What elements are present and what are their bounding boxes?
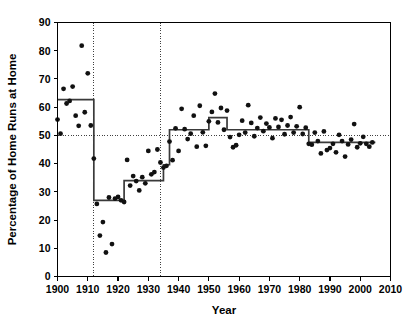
data-point [194, 144, 199, 149]
data-point [182, 127, 187, 132]
axis-label-layer: 0102030405060708090190019101920193019401… [6, 16, 402, 315]
y-tick-label: 60 [39, 101, 51, 113]
data-point [312, 130, 317, 135]
data-point [191, 113, 196, 118]
data-point [152, 170, 157, 175]
data-point [219, 106, 224, 111]
y-tick-label: 90 [39, 16, 51, 28]
data-point [285, 123, 290, 128]
data-point [200, 130, 205, 135]
data-point [288, 115, 293, 120]
data-point [70, 84, 75, 89]
data-point [179, 106, 184, 111]
data-point [134, 179, 139, 184]
data-point [258, 115, 263, 120]
data-point [282, 132, 287, 137]
data-point [309, 142, 314, 147]
y-axis-title: Percentage of Home Runs at Home [6, 54, 18, 246]
data-point [76, 123, 81, 128]
data-point [270, 136, 275, 141]
data-point-layer [55, 43, 375, 255]
y-tick-label: 40 [39, 157, 51, 169]
data-point [216, 120, 221, 125]
x-tick-label: 2010 [379, 283, 403, 295]
x-tick-label: 1910 [76, 283, 100, 295]
data-point [73, 113, 78, 118]
data-point [252, 134, 257, 139]
data-point [346, 142, 351, 147]
x-axis-title: Year [212, 304, 237, 316]
data-point [131, 174, 136, 179]
data-point [315, 139, 320, 144]
data-point [267, 125, 272, 130]
x-tick-label: 1930 [137, 283, 161, 295]
reference-line-layer [58, 23, 391, 277]
data-point [279, 117, 284, 122]
data-point [101, 220, 106, 225]
data-point [85, 71, 90, 76]
scatter-step-plot: 0102030405060708090190019101920193019401… [0, 0, 417, 335]
data-point [222, 127, 227, 132]
data-point [249, 121, 254, 126]
y-tick-label: 30 [39, 186, 51, 198]
x-tick-label: 1950 [197, 283, 221, 295]
data-point [273, 116, 278, 121]
data-point [367, 144, 372, 149]
data-point [122, 200, 127, 205]
data-point [349, 137, 354, 142]
data-point [294, 124, 299, 129]
data-point [246, 103, 251, 108]
data-point [243, 130, 248, 135]
data-point [291, 130, 296, 135]
data-point [79, 43, 84, 48]
x-tick-label: 2000 [349, 283, 373, 295]
data-point [58, 131, 63, 136]
data-point [331, 141, 336, 146]
data-point [137, 188, 142, 193]
axis-layer [54, 23, 391, 281]
data-point [170, 158, 175, 163]
x-tick-label: 1980 [288, 283, 312, 295]
data-point [213, 91, 218, 96]
x-tick-label: 1940 [167, 283, 191, 295]
y-tick-label: 10 [39, 242, 51, 254]
data-point [297, 105, 302, 110]
data-point [110, 242, 115, 247]
data-point [206, 119, 211, 124]
y-tick-label: 0 [45, 270, 51, 282]
y-tick-label: 80 [39, 45, 51, 57]
data-point [300, 132, 305, 137]
data-point [318, 151, 323, 156]
data-point [128, 183, 133, 188]
data-point [173, 126, 178, 131]
data-point [225, 108, 230, 113]
data-point [125, 158, 130, 163]
chart-figure: 0102030405060708090190019101920193019401… [0, 0, 417, 335]
data-point [209, 110, 214, 115]
y-tick-label: 20 [39, 214, 51, 226]
data-point [255, 126, 260, 131]
data-point [240, 118, 245, 123]
data-point [82, 110, 87, 115]
data-point [188, 131, 193, 136]
y-tick-label: 50 [39, 129, 51, 141]
data-point [164, 163, 169, 168]
data-point [107, 195, 112, 200]
data-point [334, 150, 339, 155]
data-point [228, 135, 233, 140]
data-point [176, 149, 181, 154]
data-point [203, 143, 208, 148]
data-point [370, 140, 375, 145]
data-point [197, 103, 202, 108]
data-point [264, 121, 269, 126]
data-point [237, 132, 242, 137]
data-point [155, 147, 160, 152]
data-point [67, 99, 72, 104]
data-point [352, 122, 357, 127]
data-point [143, 181, 148, 186]
data-point [337, 132, 342, 137]
data-point [185, 137, 190, 142]
y-tick-label: 70 [39, 73, 51, 85]
data-point [146, 149, 151, 154]
data-point [94, 202, 99, 207]
